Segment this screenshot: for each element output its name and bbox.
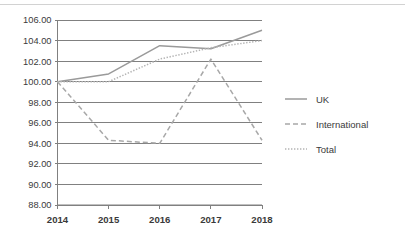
series-line-uk [58,30,263,81]
y-axis-tick-label: 102.00 [23,57,51,67]
x-axis-tick-label: 2015 [98,214,120,225]
x-axis-tick-labels: 20142015201620172018 [47,214,274,225]
x-axis-tick-marks [58,205,263,209]
x-axis-tick-label: 2018 [251,214,273,225]
y-axis-tick-label: 98.00 [28,98,51,108]
y-axis-tick-label: 100.00 [23,77,51,87]
gridlines [58,20,263,205]
line-chart: 88.0090.0092.0094.0096.0098.00100.00102.… [0,0,405,246]
legend-label-total: Total [316,144,336,155]
x-axis-tick-label: 2016 [149,214,170,225]
x-axis-tick-label: 2014 [47,214,69,225]
y-axis-tick-label: 94.00 [28,139,51,149]
legend-label-uk: UK [316,94,330,105]
chart-legend: UKInternationalTotal [285,94,368,155]
legend-label-international: International [316,119,368,130]
y-axis-tick-label: 96.00 [28,118,51,128]
y-axis-tick-label: 88.00 [28,200,51,210]
x-axis-tick-label: 2017 [200,214,221,225]
y-axis-tick-labels: 88.0090.0092.0094.0096.0098.00100.00102.… [23,15,51,210]
y-axis-tick-label: 106.00 [23,15,51,25]
y-axis-tick-label: 104.00 [23,36,51,46]
data-series-lines [58,30,263,143]
y-axis-tick-label: 92.00 [28,159,51,169]
y-axis-tick-label: 90.00 [28,180,51,190]
chart-figure: 88.0090.0092.0094.0096.0098.00100.00102.… [0,0,405,246]
series-line-international [58,59,263,143]
